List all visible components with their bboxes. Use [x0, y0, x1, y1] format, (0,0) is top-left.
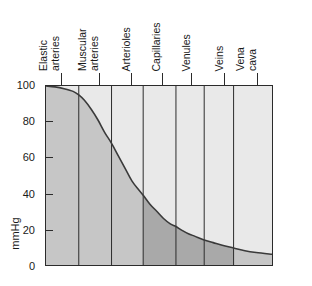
y-tick-mark [45, 157, 53, 158]
category-label: Muscular arteries [77, 1, 100, 71]
category-label-group: Elastic arteriesMuscular arteriesArterio… [45, 0, 273, 85]
y-tick-label: 40 [23, 188, 35, 199]
plot-svg [46, 86, 272, 265]
plot-area [45, 85, 273, 266]
category-tick [224, 73, 225, 85]
blood-pressure-figure: mmHg 100806040200 Elastic arteriesMuscul… [0, 0, 312, 286]
y-tick-label: 60 [23, 152, 35, 163]
category-label: Capillaries [151, 1, 163, 71]
y-tick-label: 80 [23, 116, 35, 127]
category-label: Elastic arteries [38, 1, 61, 71]
category-tick [99, 73, 100, 85]
category-tick [131, 73, 132, 85]
category-label: Veins [214, 1, 226, 71]
y-tick-label: 0 [29, 261, 35, 272]
category-label: Vena cava [235, 1, 258, 71]
category-tick [191, 73, 192, 85]
y-tick-mark [45, 121, 53, 122]
y-tick-label: 20 [23, 224, 35, 235]
y-tick-mark [45, 194, 53, 195]
category-tick [162, 73, 163, 85]
category-label: Venules [181, 1, 193, 71]
y-tick-mark [45, 230, 53, 231]
y-tick-label: 100 [17, 80, 35, 91]
y-axis: mmHg 100806040200 [0, 80, 45, 272]
category-tick [61, 73, 62, 85]
category-tick [257, 73, 258, 85]
y-axis-title: mmHg [10, 206, 21, 262]
category-label: Arterioles [120, 1, 132, 71]
